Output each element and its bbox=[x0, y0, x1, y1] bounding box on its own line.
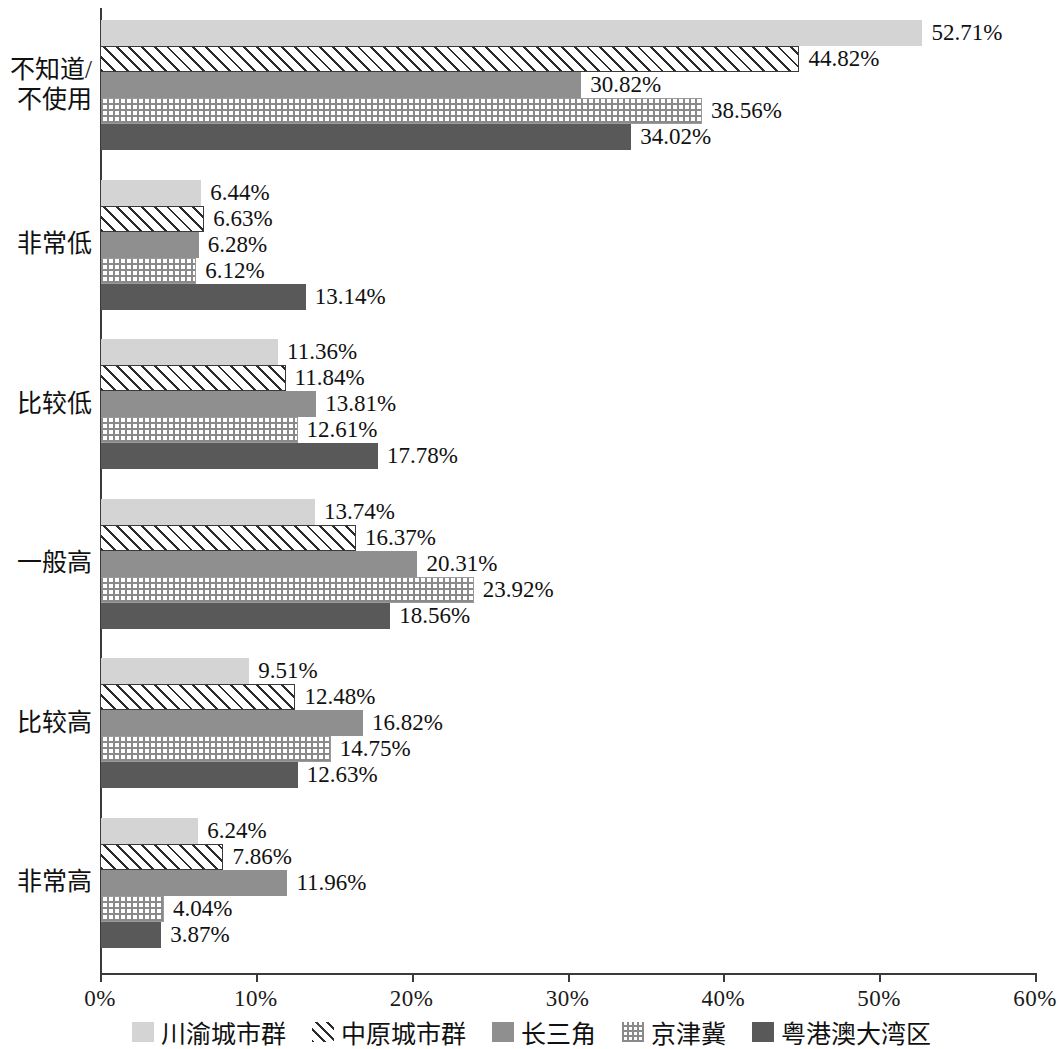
legend-item-label: 中原城市群 bbox=[341, 1014, 466, 1049]
bar-粤港澳大湾区-不知道/不使用 bbox=[101, 124, 631, 150]
bar-value-label: 11.36% bbox=[287, 339, 357, 365]
x-axis-tick bbox=[568, 973, 570, 982]
bar-value-label: 13.81% bbox=[325, 391, 396, 417]
x-axis-tick bbox=[723, 973, 725, 982]
bar-长三角-不知道/不使用 bbox=[101, 72, 581, 98]
bar-value-label: 12.61% bbox=[307, 417, 378, 443]
x-axis-tick bbox=[100, 973, 102, 982]
bar-长三角-非常低 bbox=[101, 232, 199, 258]
legend-item-label: 京津冀 bbox=[651, 1014, 726, 1049]
legend-item-粤港澳大湾区[interactable]: 粤港澳大湾区 bbox=[752, 1014, 931, 1049]
x-axis-tick-label: 10% bbox=[234, 986, 278, 1012]
x-axis-tick-label: 20% bbox=[390, 986, 434, 1012]
bar-value-label: 6.28% bbox=[208, 232, 267, 258]
legend-item-京津冀[interactable]: 京津冀 bbox=[622, 1014, 726, 1049]
category-label: 不知道/ 不使用 bbox=[0, 55, 92, 116]
bar-中原城市群-非常低 bbox=[101, 206, 204, 232]
bar-川渝城市群-非常低 bbox=[101, 180, 201, 206]
bar-value-label: 6.44% bbox=[210, 180, 269, 206]
bar-value-label: 16.37% bbox=[365, 525, 436, 551]
bar-value-label: 18.56% bbox=[399, 603, 470, 629]
bar-京津冀-非常低 bbox=[101, 258, 196, 284]
bar-中原城市群-一般高 bbox=[101, 525, 356, 551]
legend-item-label: 粤港澳大湾区 bbox=[781, 1014, 931, 1049]
bar-value-label: 17.78% bbox=[387, 443, 458, 469]
bar-value-label: 12.48% bbox=[304, 684, 375, 710]
x-axis-tick-label: 0% bbox=[84, 986, 116, 1012]
x-axis-tick bbox=[1035, 973, 1037, 982]
category-label: 一般高 bbox=[0, 548, 92, 579]
bar-京津冀-比较高 bbox=[101, 736, 331, 762]
bar-value-label: 44.82% bbox=[808, 46, 879, 72]
category-label: 非常低 bbox=[0, 229, 92, 260]
legend-swatch-icon bbox=[492, 1022, 514, 1042]
legend-swatch-icon bbox=[312, 1022, 334, 1042]
bar-川渝城市群-比较高 bbox=[101, 658, 249, 684]
bar-value-label: 12.63% bbox=[307, 762, 378, 788]
bar-value-label: 30.82% bbox=[590, 72, 661, 98]
bar-粤港澳大湾区-比较低 bbox=[101, 443, 378, 469]
bar-value-label: 6.63% bbox=[213, 206, 272, 232]
bar-川渝城市群-比较低 bbox=[101, 339, 278, 365]
bar-中原城市群-不知道/不使用 bbox=[101, 46, 799, 72]
bar-value-label: 20.31% bbox=[426, 551, 497, 577]
bar-长三角-比较高 bbox=[101, 710, 363, 736]
bar-粤港澳大湾区-比较高 bbox=[101, 762, 298, 788]
bar-value-label: 9.51% bbox=[258, 658, 317, 684]
bar-京津冀-不知道/不使用 bbox=[101, 98, 702, 124]
bar-长三角-一般高 bbox=[101, 551, 417, 577]
x-axis-tick bbox=[256, 973, 258, 982]
bar-value-label: 14.75% bbox=[340, 736, 411, 762]
bar-中原城市群-比较低 bbox=[101, 365, 286, 391]
legend-item-label: 川渝城市群 bbox=[161, 1014, 286, 1049]
bar-value-label: 6.24% bbox=[207, 818, 266, 844]
bar-粤港澳大湾区-一般高 bbox=[101, 603, 390, 629]
legend-swatch-icon bbox=[132, 1022, 154, 1042]
x-axis-tick bbox=[879, 973, 881, 982]
bar-中原城市群-非常高 bbox=[101, 844, 223, 870]
bar-京津冀-比较低 bbox=[101, 417, 298, 443]
bar-长三角-非常高 bbox=[101, 870, 287, 896]
category-label: 比较高 bbox=[0, 708, 92, 739]
category-label: 比较低 bbox=[0, 389, 92, 420]
legend-item-川渝城市群[interactable]: 川渝城市群 bbox=[132, 1014, 286, 1049]
bar-value-label: 34.02% bbox=[640, 124, 711, 150]
bar-粤港澳大湾区-非常低 bbox=[101, 284, 306, 310]
bar-粤港澳大湾区-非常高 bbox=[101, 922, 161, 948]
bar-value-label: 13.14% bbox=[315, 284, 386, 310]
legend-item-长三角[interactable]: 长三角 bbox=[492, 1014, 596, 1049]
x-axis-tick-label: 40% bbox=[701, 986, 745, 1012]
bar-value-label: 23.92% bbox=[483, 577, 554, 603]
bar-value-label: 4.04% bbox=[173, 896, 232, 922]
chart-legend: 川渝城市群中原城市群长三角京津冀粤港澳大湾区 bbox=[0, 1014, 1062, 1049]
bar-川渝城市群-不知道/不使用 bbox=[101, 20, 922, 46]
bar-value-label: 13.74% bbox=[324, 499, 395, 525]
x-axis-tick-label: 30% bbox=[546, 986, 590, 1012]
legend-item-label: 长三角 bbox=[521, 1014, 596, 1049]
bar-value-label: 16.82% bbox=[372, 710, 443, 736]
bar-中原城市群-比较高 bbox=[101, 684, 295, 710]
bar-value-label: 52.71% bbox=[931, 20, 1002, 46]
legend-swatch-icon bbox=[622, 1022, 644, 1042]
bar-value-label: 38.56% bbox=[711, 98, 782, 124]
bar-长三角-比较低 bbox=[101, 391, 316, 417]
bar-京津冀-非常高 bbox=[101, 896, 164, 922]
bar-京津冀-一般高 bbox=[101, 577, 474, 603]
x-axis-tick-label: 50% bbox=[857, 986, 901, 1012]
x-axis-tick-label: 60% bbox=[1013, 986, 1057, 1012]
bar-value-label: 11.96% bbox=[296, 870, 366, 896]
category-label: 非常高 bbox=[0, 867, 92, 898]
horizontal-bar-chart: 0%10%20%30%40%50%60% 52.71%44.82%30.82%3… bbox=[0, 0, 1062, 1049]
bar-川渝城市群-一般高 bbox=[101, 499, 315, 525]
bar-value-label: 6.12% bbox=[205, 258, 264, 284]
legend-swatch-icon bbox=[752, 1022, 774, 1042]
legend-item-中原城市群[interactable]: 中原城市群 bbox=[312, 1014, 466, 1049]
bar-value-label: 11.84% bbox=[295, 365, 365, 391]
bar-川渝城市群-非常高 bbox=[101, 818, 198, 844]
plot-area: 0%10%20%30%40%50%60% 52.71%44.82%30.82%3… bbox=[100, 8, 1035, 973]
x-axis-tick bbox=[412, 973, 414, 982]
bar-value-label: 7.86% bbox=[232, 844, 291, 870]
bar-value-label: 3.87% bbox=[170, 922, 229, 948]
